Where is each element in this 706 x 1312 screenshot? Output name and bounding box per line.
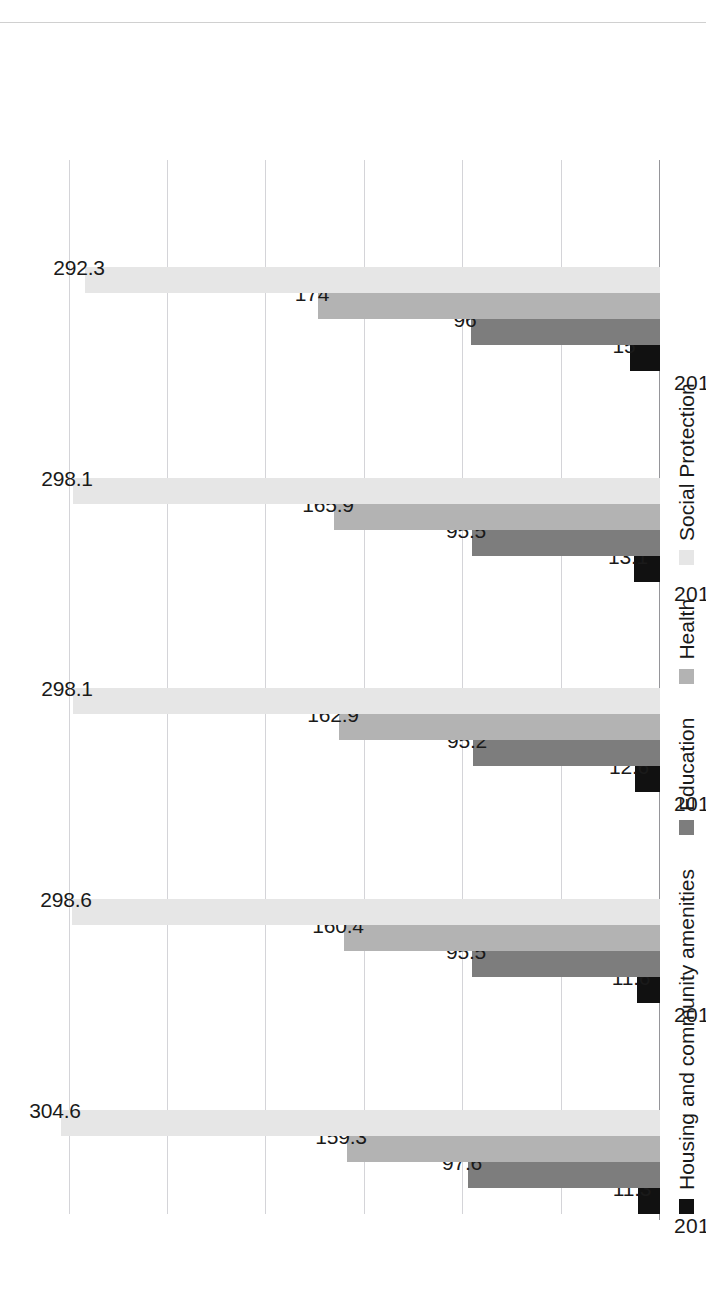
bar[interactable]: 298.1 (73, 478, 660, 504)
bar[interactable]: 97.6 (468, 1162, 660, 1188)
bar-slot: 298.1 (46, 688, 660, 714)
bar[interactable]: 174 (318, 293, 660, 319)
bar[interactable]: 159.3 (347, 1136, 660, 1162)
legend-swatch-icon (679, 669, 694, 684)
legend-swatch-icon (679, 820, 694, 835)
chart-canvas: 11.32015–1697.6159.3304.611.62016–1795.5… (0, 0, 706, 1312)
bar-value-label: 298.1 (42, 467, 94, 491)
bar[interactable]: 95.5 (472, 951, 660, 977)
legend-item[interactable]: Education (676, 718, 697, 835)
bar[interactable]: 298.1 (73, 688, 660, 714)
plot-area: 11.32015–1697.6159.3304.611.62016–1795.5… (46, 160, 660, 1214)
legend-swatch-icon (679, 1199, 694, 1214)
chart-legend: Housing and community amenitiesEducation… (676, 160, 697, 1214)
bar-group: 13.12018–1995.5165.9298.1 (46, 371, 660, 582)
bar-slot: 11.32015–16 (46, 1188, 660, 1214)
bar[interactable]: 13.1 (634, 556, 660, 582)
legend-item[interactable]: Social Protection (676, 383, 697, 565)
bar-slot: 160.4 (46, 925, 660, 951)
bar-value-label: 298.6 (41, 888, 93, 912)
bar-slot: 165.9 (46, 504, 660, 530)
bar-group: 152019–2096174292.3 (46, 160, 660, 371)
legend-swatch-icon (679, 550, 694, 565)
bar[interactable]: 12.6 (635, 766, 660, 792)
legend-item[interactable]: Housing and community amenities (676, 869, 697, 1214)
legend-item[interactable]: Health (676, 599, 697, 684)
bar[interactable]: 15 (630, 345, 660, 371)
bar-slot: 162.9 (46, 714, 660, 740)
bar-slot: 11.62016–17 (46, 977, 660, 1003)
bar[interactable]: 95.2 (473, 740, 660, 766)
bar-slot: 292.3 (46, 267, 660, 293)
bar-value-label: 298.1 (42, 677, 94, 701)
bar-group: 11.62016–1795.5160.4298.6 (46, 792, 660, 1003)
bar-slot: 97.6 (46, 1162, 660, 1188)
bar-slot: 95.2 (46, 740, 660, 766)
legend-label: Housing and community amenities (676, 869, 697, 1190)
bar-slot: 304.6 (46, 1110, 660, 1136)
bar[interactable]: 304.6 (61, 1110, 660, 1136)
bar-value-label: 304.6 (29, 1099, 81, 1123)
bar[interactable]: 160.4 (344, 925, 660, 951)
bar-slot: 174 (46, 293, 660, 319)
bar-slot: 95.5 (46, 951, 660, 977)
bar[interactable]: 11.6 (637, 977, 660, 1003)
category-axis-label: 2015–16 (674, 1214, 700, 1238)
bar[interactable]: 96 (471, 319, 660, 345)
scan-edge-artifact (0, 22, 706, 23)
bar-value-label: 292.3 (53, 256, 105, 280)
bar[interactable]: 11.3 (638, 1188, 660, 1214)
bar[interactable]: 165.9 (334, 504, 660, 530)
bar-slot: 96 (46, 319, 660, 345)
bar[interactable]: 292.3 (85, 267, 660, 293)
bar[interactable]: 298.6 (72, 899, 660, 925)
legend-label: Social Protection (676, 383, 697, 541)
bar[interactable]: 162.9 (339, 714, 660, 740)
bar-slot: 152019–20 (46, 345, 660, 371)
bar-slot: 95.5 (46, 530, 660, 556)
bar-group: 12.62017–1895.2162.9298.1 (46, 582, 660, 793)
bar-groups: 11.32015–1697.6159.3304.611.62016–1795.5… (46, 160, 660, 1214)
legend-label: Education (676, 718, 697, 811)
bar-slot: 298.6 (46, 899, 660, 925)
bar-slot: 12.62017–18 (46, 766, 660, 792)
legend-label: Health (676, 599, 697, 660)
bar-slot: 298.1 (46, 478, 660, 504)
bar[interactable]: 95.5 (472, 530, 660, 556)
bar-slot: 159.3 (46, 1136, 660, 1162)
bar-slot: 13.12018–19 (46, 556, 660, 582)
bar-group: 11.32015–1697.6159.3304.6 (46, 1003, 660, 1214)
